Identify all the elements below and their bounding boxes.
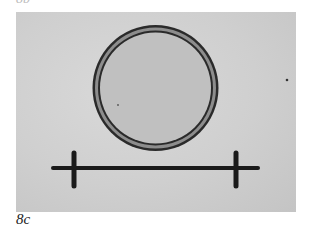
micrograph-drawing bbox=[16, 12, 296, 212]
figure-top-label: 8b bbox=[16, 0, 30, 7]
ring-object bbox=[93, 25, 219, 151]
figure-caption: 8c bbox=[16, 211, 30, 228]
dust-speck bbox=[286, 79, 289, 82]
dust-speck bbox=[117, 104, 119, 106]
scale-bar bbox=[53, 153, 258, 186]
micrograph-panel bbox=[16, 12, 296, 212]
